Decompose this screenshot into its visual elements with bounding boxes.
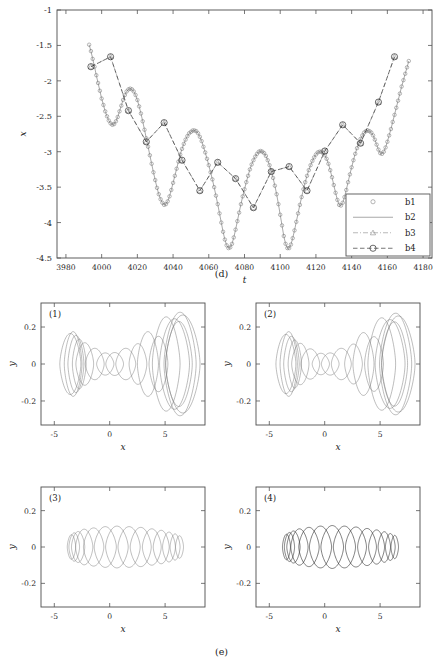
y-axis-title: y xyxy=(222,544,232,551)
x-tick-label: -5 xyxy=(266,430,274,439)
subfigure-caption-d: (d) xyxy=(0,268,443,279)
x-tick-label: 0 xyxy=(322,612,327,621)
orbit-loop xyxy=(312,353,329,374)
orbit-loop xyxy=(166,322,193,407)
y-tick-label: -2 xyxy=(44,76,52,86)
orbit-loop xyxy=(83,528,103,566)
timeseries-plot: 3980400040204040406040804100412041404160… xyxy=(0,0,443,285)
plot-frame xyxy=(41,487,205,607)
orbit-loop xyxy=(331,348,351,379)
orbit-group xyxy=(282,526,398,569)
subpanel-4: -5050.20-0.2xy(4) xyxy=(222,487,420,634)
legend: b1b2b3b4 xyxy=(346,194,430,256)
orbit-group xyxy=(67,526,183,568)
orbit-loop xyxy=(280,332,297,397)
y-tick-label: 0 xyxy=(31,360,36,369)
orbit-loop xyxy=(345,344,363,384)
y-tick-label: 0 xyxy=(246,360,251,369)
x-axis-title: x xyxy=(335,442,340,452)
x-tick-label: -5 xyxy=(51,612,59,621)
legend-label: b3 xyxy=(405,228,416,238)
orbit-loop xyxy=(130,527,151,566)
orbit-loop xyxy=(276,334,296,393)
y-tick-label: 0.2 xyxy=(239,507,251,516)
x-axis-title: x xyxy=(335,624,340,634)
panel-tag: (1) xyxy=(49,309,61,319)
orbit-loop xyxy=(176,536,184,559)
x-tick-label: 0 xyxy=(107,612,112,621)
orbit-loop xyxy=(309,526,331,568)
series-b3 xyxy=(88,54,397,210)
orbit-loop xyxy=(94,527,116,568)
x-axis-title: x xyxy=(120,624,125,634)
orbit-loop xyxy=(321,526,344,569)
orbit-loop xyxy=(333,526,355,568)
panel-tag: (2) xyxy=(264,309,276,319)
y-tick-label: 0 xyxy=(246,543,251,552)
orbit-group xyxy=(60,312,200,415)
orbit-group xyxy=(276,313,415,415)
orbit-loop xyxy=(106,526,129,568)
orbit-loop xyxy=(391,535,399,558)
x-tick-label: 5 xyxy=(163,612,168,621)
orbit-loop xyxy=(321,353,339,375)
x-tick-label: 0 xyxy=(107,430,112,439)
orbit-loop xyxy=(301,349,320,379)
phase-portrait-grid: -5050.20-0.2xy(1)-5050.20-0.2xy(2)-5050.… xyxy=(0,285,443,665)
y-tick-label: -4.5 xyxy=(36,253,52,263)
x-tick-label: 5 xyxy=(163,430,168,439)
legend-label: b2 xyxy=(405,212,416,222)
orbit-loop xyxy=(299,527,319,566)
orbit-loop xyxy=(85,348,104,379)
orbit-loop xyxy=(106,353,124,376)
panel-d-timeseries: 3980400040204040406040804100412041404160… xyxy=(0,0,443,285)
legend-box xyxy=(346,194,430,256)
panel-e-phaseportraits: -5050.20-0.2xy(1)-5050.20-0.2xy(2)-5050.… xyxy=(0,285,443,665)
subpanel-3: -5050.20-0.2xy(3) xyxy=(7,487,205,634)
y-tick-label: 0.2 xyxy=(239,323,251,332)
orbit-loop xyxy=(142,529,161,565)
x-tick-label: -5 xyxy=(51,430,59,439)
orbit-loop xyxy=(353,333,374,396)
orbit-loop xyxy=(97,353,114,375)
orbit-loop xyxy=(345,527,366,567)
y-tick-label: -0.2 xyxy=(21,397,36,406)
y-tick-label: -1.5 xyxy=(36,40,52,50)
plot-frame xyxy=(41,303,205,425)
y-axis-title: y xyxy=(7,361,17,368)
orbit-loop xyxy=(381,322,407,406)
orbit-loop xyxy=(358,528,377,565)
y-tick-label: -3.5 xyxy=(36,182,52,192)
y-axis-title: x xyxy=(18,131,28,136)
x-tick-label: 5 xyxy=(378,612,383,621)
y-tick-label: 0.2 xyxy=(24,507,36,516)
subpanel-2: -5050.20-0.2xy(2) xyxy=(222,303,420,452)
x-tick-label: -5 xyxy=(266,612,274,621)
y-tick-label: -4 xyxy=(44,218,52,228)
x-tick-label: 0 xyxy=(322,430,327,439)
orbit-loop xyxy=(170,534,180,560)
y-tick-label: -1 xyxy=(44,5,52,15)
orbit-loop xyxy=(118,527,140,568)
x-axis-title: x xyxy=(120,442,125,452)
subpanel-1: -5050.20-0.2xy(1) xyxy=(7,303,205,452)
orbit-loop xyxy=(292,343,309,384)
orbit-loop xyxy=(60,334,81,395)
y-tick-label: -0.2 xyxy=(236,397,251,406)
orbit-loop xyxy=(76,529,93,565)
panel-tag: (4) xyxy=(264,493,276,503)
series-b4 xyxy=(88,54,398,211)
x-tick-label: 5 xyxy=(378,430,383,439)
figure-root: 3980400040204040406040804100412041404160… xyxy=(0,0,443,665)
orbit-loop xyxy=(116,348,136,379)
subfigure-caption-e: (e) xyxy=(0,646,443,657)
orbit-loop xyxy=(282,534,290,559)
y-axis-title: y xyxy=(7,544,17,551)
y-tick-label: -3 xyxy=(44,147,52,157)
orbit-loop xyxy=(64,332,82,397)
legend-label: b4 xyxy=(405,243,416,253)
y-tick-label: 0.2 xyxy=(24,323,36,332)
y-tick-label: -0.2 xyxy=(21,579,36,588)
orbit-loop xyxy=(137,332,158,397)
y-tick-label: -2.5 xyxy=(36,111,52,121)
